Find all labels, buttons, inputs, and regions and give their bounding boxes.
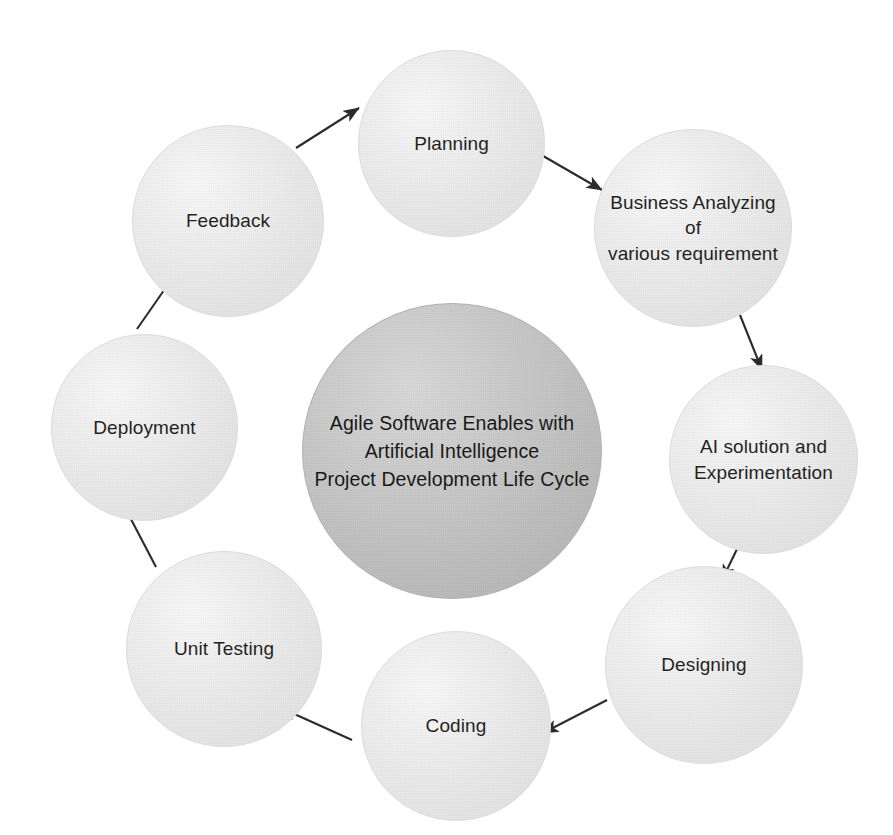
node-designing-label: Designing [653, 652, 754, 677]
node-business-analyzing-label: Business Analyzing of various requiremen… [595, 190, 791, 265]
node-feedback-label: Feedback [178, 208, 278, 233]
diagram-canvas: Agile Software Enables with Artificial I… [0, 0, 893, 835]
center-node: Agile Software Enables with Artificial I… [302, 303, 602, 599]
node-business-analyzing[interactable]: Business Analyzing of various requiremen… [594, 129, 792, 327]
node-coding[interactable]: Coding [361, 631, 551, 821]
node-unit-testing[interactable]: Unit Testing [126, 551, 322, 747]
node-planning-label: Planning [406, 131, 497, 156]
node-feedback[interactable]: Feedback [132, 125, 324, 317]
arrow-feedback-to-planning [296, 108, 359, 148]
center-node-label: Agile Software Enables with Artificial I… [306, 409, 597, 494]
node-deployment-label: Deployment [85, 415, 203, 440]
node-planning[interactable]: Planning [358, 50, 545, 237]
node-ai-solution[interactable]: AI solution and Experimentation [669, 365, 858, 554]
node-coding-label: Coding [418, 713, 495, 738]
arrow-planning-to-business [538, 153, 602, 190]
arrow-designing-to-coding [543, 700, 607, 733]
node-unit-testing-label: Unit Testing [166, 636, 282, 661]
node-designing[interactable]: Designing [605, 566, 803, 764]
node-ai-solution-label: AI solution and Experimentation [686, 434, 841, 484]
node-deployment[interactable]: Deployment [51, 334, 238, 521]
